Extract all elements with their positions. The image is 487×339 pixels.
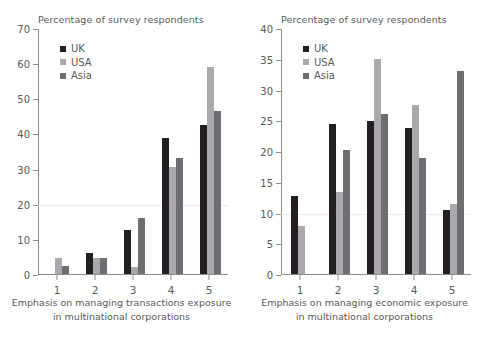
bar-asia-4 xyxy=(419,158,426,274)
y-tick-label-25: 25 xyxy=(260,116,273,127)
y-tick-label-30: 30 xyxy=(17,164,30,175)
y-tick-label-10: 10 xyxy=(260,208,273,219)
y-tick-label-60: 60 xyxy=(17,59,30,70)
x-tick-label-5: 5 xyxy=(206,284,213,296)
x-tick-label-5: 5 xyxy=(449,284,456,296)
y-tick-70 xyxy=(33,29,38,30)
legend-label-asia: Asia xyxy=(314,69,335,83)
y-tick-40 xyxy=(33,134,38,135)
x-tick-5 xyxy=(209,275,210,280)
x-tick-label-3: 3 xyxy=(373,284,380,296)
x-axis-label-right-line2: in multinational corporations xyxy=(243,310,486,324)
bar-asia-1 xyxy=(62,266,69,274)
chart-title-left: Percentage of survey respondents xyxy=(38,14,204,25)
bar-asia-5 xyxy=(457,71,464,274)
x-tick-label-1: 1 xyxy=(297,284,304,296)
bar-usa-3 xyxy=(374,59,381,274)
bar-uk-2 xyxy=(329,124,336,274)
legend-item-uk: UK xyxy=(303,42,335,56)
bar-group-3 xyxy=(358,29,396,274)
x-tick-3 xyxy=(376,275,377,280)
bar-group-3 xyxy=(115,29,153,274)
legend-item-asia: Asia xyxy=(303,69,335,83)
bar-uk-3 xyxy=(124,230,131,274)
bar-group-4 xyxy=(396,29,434,274)
x-tick-1 xyxy=(57,275,58,280)
bar-usa-4 xyxy=(169,167,176,274)
legend-item-usa: USA xyxy=(60,56,92,70)
y-tick-label-15: 15 xyxy=(260,177,273,188)
x-tick-label-4: 4 xyxy=(168,284,175,296)
bar-usa-1 xyxy=(55,258,62,274)
y-tick-label-0: 0 xyxy=(24,270,30,281)
bar-asia-5 xyxy=(214,111,221,274)
bar-asia-4 xyxy=(176,158,183,274)
x-tick-5 xyxy=(452,275,453,280)
bar-uk-3 xyxy=(367,121,374,274)
y-tick-35 xyxy=(276,60,281,61)
bar-usa-1 xyxy=(298,226,305,274)
legend-label-uk: UK xyxy=(314,42,328,56)
y-tick-20 xyxy=(276,152,281,153)
legend-swatch-usa-icon xyxy=(60,59,66,65)
y-tick-label-40: 40 xyxy=(17,129,30,140)
y-tick-0 xyxy=(33,275,38,276)
bar-usa-3 xyxy=(131,267,138,274)
x-tick-label-3: 3 xyxy=(130,284,137,296)
legend-swatch-usa-icon xyxy=(303,59,309,65)
y-tick-label-35: 35 xyxy=(260,54,273,65)
legend-swatch-asia-icon xyxy=(303,73,309,79)
two-panel-bar-chart-figure: Percentage of survey respondents 0102030… xyxy=(0,0,487,339)
y-tick-30 xyxy=(33,170,38,171)
x-axis-label-left: Emphasis on managing transactions exposu… xyxy=(0,296,243,324)
y-tick-label-40: 40 xyxy=(260,24,273,35)
x-axis-label-right-line1: Emphasis on managing economic exposure xyxy=(243,296,486,310)
x-axis-label-left-line2: in multinational corporations xyxy=(0,310,243,324)
legend-right: UKUSAAsia xyxy=(303,42,335,83)
x-tick-4 xyxy=(414,275,415,280)
y-tick-0 xyxy=(276,275,281,276)
x-tick-label-2: 2 xyxy=(335,284,342,296)
legend-label-asia: Asia xyxy=(71,69,92,83)
bar-usa-4 xyxy=(412,105,419,274)
legend-swatch-uk-icon xyxy=(60,46,66,52)
chart-title-right: Percentage of survey respondents xyxy=(281,14,447,25)
bar-usa-5 xyxy=(450,204,457,274)
y-tick-label-5: 5 xyxy=(267,239,273,250)
y-tick-30 xyxy=(276,91,281,92)
chart-panel-transactions-exposure: Percentage of survey respondents 0102030… xyxy=(0,0,243,339)
y-tick-5 xyxy=(276,244,281,245)
y-tick-50 xyxy=(33,99,38,100)
y-tick-label-0: 0 xyxy=(267,270,273,281)
bar-asia-2 xyxy=(100,258,107,274)
bar-usa-5 xyxy=(207,67,214,274)
y-tick-15 xyxy=(276,183,281,184)
y-tick-label-70: 70 xyxy=(17,24,30,35)
x-tick-2 xyxy=(95,275,96,280)
x-tick-label-1: 1 xyxy=(54,284,61,296)
bar-uk-4 xyxy=(162,138,169,274)
legend-swatch-asia-icon xyxy=(60,73,66,79)
legend-label-usa: USA xyxy=(314,56,335,70)
legend-swatch-uk-icon xyxy=(303,46,309,52)
x-tick-label-2: 2 xyxy=(92,284,99,296)
chart-panel-economic-exposure: Percentage of survey respondents 0510152… xyxy=(243,0,486,339)
x-tick-4 xyxy=(171,275,172,280)
bar-asia-3 xyxy=(381,114,388,274)
legend-left: UKUSAAsia xyxy=(60,42,92,83)
legend-item-asia: Asia xyxy=(60,69,92,83)
bar-group-5 xyxy=(434,29,472,274)
y-tick-label-20: 20 xyxy=(260,147,273,158)
x-axis-label-right: Emphasis on managing economic exposure i… xyxy=(243,296,486,324)
bar-group-5 xyxy=(191,29,229,274)
y-tick-label-50: 50 xyxy=(17,94,30,105)
legend-item-uk: UK xyxy=(60,42,92,56)
bar-uk-1 xyxy=(291,196,298,274)
y-tick-label-10: 10 xyxy=(17,234,30,245)
legend-label-uk: UK xyxy=(71,42,85,56)
y-tick-label-30: 30 xyxy=(260,85,273,96)
legend-label-usa: USA xyxy=(71,56,92,70)
x-tick-2 xyxy=(338,275,339,280)
bar-usa-2 xyxy=(336,192,343,274)
y-tick-label-20: 20 xyxy=(17,199,30,210)
